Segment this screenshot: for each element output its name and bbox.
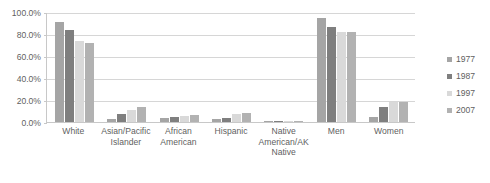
legend-swatch-icon xyxy=(447,74,452,79)
legend-label: 2007 xyxy=(456,106,475,115)
legend-swatch-icon xyxy=(447,57,452,62)
chart-legend: 1977198719972007 xyxy=(447,51,490,119)
x-axis-label: Men xyxy=(310,126,363,158)
y-tick-mark xyxy=(44,123,47,124)
y-tick-label: 100.0% xyxy=(12,9,41,18)
y-tick-label: 20.0% xyxy=(17,97,41,106)
plot-area xyxy=(46,13,415,123)
bar[interactable] xyxy=(347,32,356,122)
y-tick-label: 80.0% xyxy=(17,31,41,40)
legend-label: 1977 xyxy=(456,55,475,64)
bar[interactable] xyxy=(294,121,303,122)
bar[interactable] xyxy=(85,43,94,122)
legend-item[interactable]: 2007 xyxy=(447,102,490,119)
bar[interactable] xyxy=(264,121,273,122)
bar[interactable] xyxy=(379,107,388,122)
legend-item[interactable]: 1987 xyxy=(447,68,490,85)
bar[interactable] xyxy=(274,121,283,122)
bar[interactable] xyxy=(160,118,169,122)
y-tick-label: 40.0% xyxy=(17,75,41,84)
bar[interactable] xyxy=(222,118,231,122)
legend-swatch-icon xyxy=(447,91,452,96)
bar[interactable] xyxy=(170,117,179,123)
x-axis-label: Hispanic xyxy=(205,126,258,158)
bar-group xyxy=(48,13,100,122)
bar-group xyxy=(363,13,415,122)
x-axis-label: Asian/Pacific Islander xyxy=(100,126,153,158)
legend-label: 1997 xyxy=(456,89,475,98)
y-tick-mark xyxy=(44,101,47,102)
bar-group xyxy=(100,13,152,122)
bar[interactable] xyxy=(399,102,408,122)
x-axis-label: Native American/AK Native xyxy=(257,126,310,158)
y-tick-label: 60.0% xyxy=(17,53,41,62)
bar[interactable] xyxy=(369,117,378,123)
bar[interactable] xyxy=(242,113,251,122)
y-tick-mark xyxy=(44,35,47,36)
y-tick-mark xyxy=(44,79,47,80)
x-axis-label: Women xyxy=(362,126,415,158)
bar-group xyxy=(153,13,205,122)
bar[interactable] xyxy=(117,114,126,122)
bar[interactable] xyxy=(190,115,199,122)
bar[interactable] xyxy=(337,32,346,122)
bar[interactable] xyxy=(212,119,221,122)
bar[interactable] xyxy=(137,107,146,122)
bar[interactable] xyxy=(180,116,189,122)
legend-swatch-icon xyxy=(447,108,452,113)
bar[interactable] xyxy=(55,22,64,122)
y-axis: 100.0%80.0%60.0%40.0%20.0%0.0% xyxy=(0,13,44,123)
bar[interactable] xyxy=(65,30,74,122)
bar-group xyxy=(258,13,310,122)
bar[interactable] xyxy=(232,114,241,122)
legend-item[interactable]: 1977 xyxy=(447,51,490,68)
bar-group xyxy=(310,13,362,122)
y-tick-label: 0.0% xyxy=(21,119,41,128)
legend-item[interactable]: 1997 xyxy=(447,85,490,102)
legend-label: 1987 xyxy=(456,72,475,81)
bar-chart: 100.0%80.0%60.0%40.0%20.0%0.0% WhiteAsia… xyxy=(0,0,490,183)
y-tick-mark xyxy=(44,57,47,58)
bar[interactable] xyxy=(107,119,116,122)
bar[interactable] xyxy=(127,110,136,122)
bar[interactable] xyxy=(327,27,336,122)
bar[interactable] xyxy=(389,102,398,122)
x-axis: WhiteAsian/Pacific IslanderAfrican Ameri… xyxy=(47,126,415,158)
bar-groups xyxy=(48,13,415,122)
x-axis-label: African American xyxy=(152,126,205,158)
bar[interactable] xyxy=(317,18,326,123)
y-tick-mark xyxy=(44,13,47,14)
bar[interactable] xyxy=(284,121,293,122)
bar[interactable] xyxy=(75,41,84,122)
x-axis-label: White xyxy=(47,126,100,158)
bar-group xyxy=(205,13,257,122)
